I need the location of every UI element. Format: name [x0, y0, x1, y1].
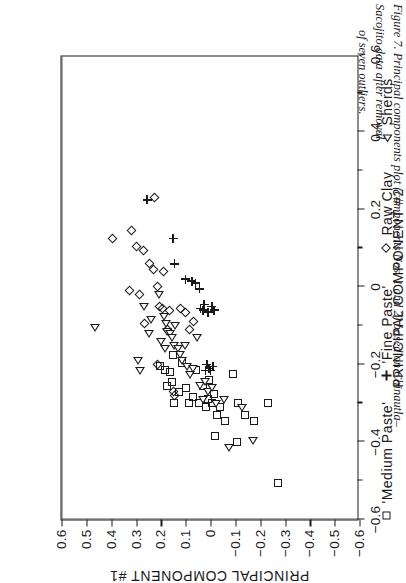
caption-line-1: Figure 7. Principal components plot (com… [373, 4, 405, 427]
plus-marker-icon [181, 274, 190, 283]
square-glyph [382, 512, 390, 520]
diamond-marker-icon [148, 264, 158, 274]
triangle-marker-icon [224, 444, 234, 452]
data-point-plus [209, 305, 218, 314]
diamond-marker-icon [149, 192, 159, 202]
y-tick-label: −0.1 [227, 529, 242, 556]
x-tick [357, 440, 364, 441]
triangle-marker-icon [179, 341, 189, 349]
y-tick-label: 0.1 [178, 529, 193, 548]
y-tick [111, 519, 112, 526]
square-marker-icon [263, 399, 271, 407]
data-point-triangle [152, 290, 161, 299]
data-point-triangle [191, 332, 200, 341]
plus-marker-icon [169, 259, 178, 268]
data-point-square [165, 367, 174, 376]
data-point-diamond [125, 286, 134, 295]
plus-marker-icon [194, 284, 203, 293]
square-marker-icon [165, 368, 173, 376]
square-marker-icon [181, 383, 189, 391]
data-point-triangle [168, 321, 177, 330]
data-point-plus [201, 365, 210, 374]
triangle-marker-icon [153, 291, 163, 299]
square-marker-icon [273, 478, 281, 486]
plus-marker-icon [168, 234, 177, 243]
square-marker-icon [168, 377, 176, 385]
y-tick-label: 0.5 [78, 529, 93, 548]
y-tick [185, 519, 186, 526]
diamond-marker-icon [158, 266, 168, 276]
data-point-diamond [148, 265, 157, 274]
square-marker-icon [211, 432, 219, 440]
triangle-marker-icon [146, 316, 156, 324]
y-tick [136, 519, 137, 526]
data-point-triangle [133, 365, 142, 374]
y-tick-label: −0.4 [302, 529, 317, 556]
data-point-triangle [206, 383, 215, 392]
y-tick-label: −0.2 [252, 529, 267, 556]
diamond-marker-icon [138, 245, 148, 255]
triangle-marker-icon [138, 302, 148, 310]
plus-marker-icon [201, 365, 210, 374]
data-point-triangle [89, 323, 98, 332]
data-point-square [210, 431, 219, 440]
data-point-triangle [137, 301, 146, 310]
y-tick [359, 519, 360, 526]
data-point-plus [169, 259, 178, 268]
triangle-marker-icon [198, 395, 208, 403]
data-point-square [228, 369, 237, 378]
data-point-diamond [138, 245, 147, 254]
y-tick-label: 0.6 [54, 529, 69, 548]
y-tick-label: 0 [203, 529, 218, 537]
data-point-diamond [152, 360, 161, 369]
data-point-triangle [145, 315, 154, 324]
data-point-triangle [218, 394, 227, 403]
diamond-marker-icon [107, 233, 117, 243]
diamond-marker-icon [126, 225, 136, 235]
y-tick-label: 0.4 [103, 529, 118, 548]
y-tick [86, 519, 87, 526]
data-point-square [263, 398, 272, 407]
triangle-marker-icon [132, 357, 142, 365]
data-point-plus [168, 234, 177, 243]
data-point-square [167, 377, 176, 386]
y-tick-label: 0.3 [128, 529, 143, 548]
diamond-marker-icon [124, 285, 134, 295]
y-tick [210, 519, 211, 526]
square-marker-icon [221, 416, 229, 424]
data-point-triangle [158, 344, 167, 353]
triangle-marker-icon [90, 324, 100, 332]
y-tick [334, 519, 335, 526]
y-tick [285, 519, 286, 526]
data-point-triangle [235, 402, 244, 411]
diamond-marker-icon [152, 359, 162, 369]
diamond-marker-icon [169, 390, 179, 400]
data-point-diamond [135, 290, 144, 299]
data-point-diamond [150, 193, 159, 202]
triangle-marker-icon [247, 436, 257, 444]
x-tick-minor [357, 479, 362, 480]
y-tick [235, 519, 236, 526]
square-legend-icon [381, 510, 391, 520]
y-tick [260, 519, 261, 526]
diamond-marker-icon [134, 289, 144, 299]
triangle-marker-icon [192, 333, 202, 341]
figure-caption: Figure 7. Principal components plot (com… [353, 0, 406, 430]
y-tick [309, 519, 310, 526]
data-point-diamond [126, 226, 135, 235]
diamond-marker-icon [180, 307, 190, 317]
data-point-triangle [178, 340, 187, 349]
y-tick [61, 519, 62, 526]
data-point-triangle [209, 398, 218, 407]
y-tick-label: −0.3 [277, 529, 292, 556]
data-point-plus [194, 284, 203, 293]
triangle-marker-icon [219, 395, 229, 403]
y-tick-label: −0.6 [352, 529, 367, 556]
data-point-square [249, 416, 258, 425]
data-point-square [220, 416, 229, 425]
plot-axes-frame: −0.6−0.4−0.200.20.40.6 −0.6−0.5−0.4−0.3−… [60, 55, 358, 520]
triangle-marker-icon [188, 364, 198, 372]
data-point-diamond [107, 234, 116, 243]
data-point-triangle [142, 329, 151, 338]
